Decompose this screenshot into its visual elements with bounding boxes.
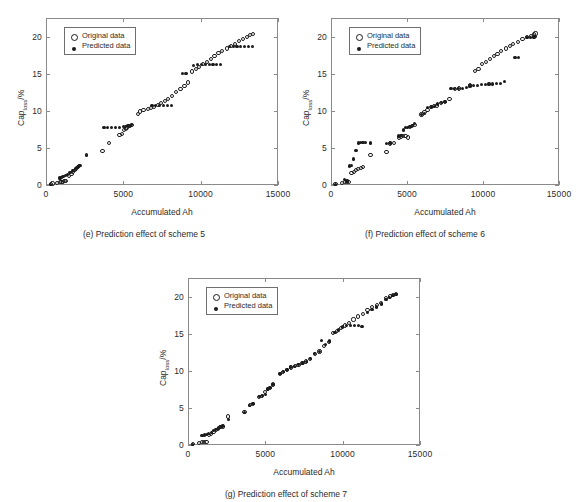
x-tick (559, 181, 560, 185)
filled-circle-icon (69, 37, 79, 55)
data-point-predicted (385, 142, 388, 145)
y-tick (331, 111, 335, 112)
data-point-predicted (334, 183, 337, 186)
panel-caption: (e) Prediction effect of scheme 5 (0, 229, 288, 239)
x-tick-top (331, 18, 332, 22)
legend-label-original: Original data (82, 31, 125, 41)
data-point-predicted (305, 360, 308, 363)
data-point-predicted (235, 45, 238, 48)
x-tick-top (201, 18, 202, 22)
y-tick-right (416, 371, 420, 372)
data-point-predicted (487, 82, 490, 85)
legend-item-predicted: Predicted data (354, 41, 415, 51)
data-point-predicted (337, 328, 340, 331)
data-point-original (516, 40, 520, 44)
x-tick-label: 15000 (539, 189, 576, 199)
y-tick (46, 74, 50, 75)
data-point-predicted (114, 126, 117, 129)
data-point-original (484, 60, 488, 64)
y-tick-right (274, 111, 278, 112)
data-point-predicted (232, 45, 235, 48)
data-point-predicted (192, 64, 195, 67)
data-point-predicted (513, 56, 516, 59)
data-point-predicted (333, 331, 336, 334)
y-tick-label: 20 (20, 32, 42, 42)
data-point-predicted (268, 386, 271, 389)
data-point-predicted (394, 293, 397, 296)
y-tick-label: 0 (20, 180, 42, 190)
y-tick-right (416, 334, 420, 335)
x-tick-top (420, 278, 421, 282)
legend-item-predicted: Predicted data (211, 301, 272, 311)
x-tick-label: 10000 (463, 189, 503, 199)
data-point-predicted (525, 36, 528, 39)
data-point-original (204, 440, 208, 444)
data-point-original (488, 57, 492, 61)
x-tick-top (46, 18, 47, 22)
x-tick-label: 15000 (400, 449, 440, 459)
data-point-predicted (380, 302, 383, 305)
legend: Original dataPredicted data (349, 27, 421, 55)
data-point-predicted (150, 104, 153, 107)
data-point-original (392, 141, 396, 145)
x-tick (407, 181, 408, 185)
y-axis-title: Caploss/% (158, 349, 170, 385)
x-tick-top (188, 278, 189, 282)
data-point-predicted (85, 153, 88, 156)
filled-circle-icon (211, 297, 221, 315)
legend: Original dataPredicted data (64, 27, 136, 55)
data-point-original (174, 90, 178, 94)
y-tick-label: 5 (162, 403, 184, 413)
y-tick-label: 20 (305, 32, 327, 42)
x-tick-top (407, 18, 408, 22)
y-tick-label: 15 (20, 69, 42, 79)
x-tick-top (278, 18, 279, 22)
data-point-original (447, 97, 451, 101)
data-point-predicted (461, 87, 464, 90)
y-tick-label: 15 (305, 69, 327, 79)
x-tick-label: 10000 (181, 189, 221, 199)
data-point-original (384, 150, 388, 154)
data-point-predicted (102, 126, 105, 129)
data-point-original (107, 141, 111, 145)
x-tick (265, 441, 266, 445)
data-point-predicted (375, 305, 378, 308)
data-point-predicted (353, 324, 356, 327)
data-point-predicted (251, 45, 254, 48)
x-tick-label: 0 (168, 449, 208, 459)
y-tick (331, 148, 335, 149)
y-tick (46, 148, 50, 149)
x-axis-title: Accumulated Ah (46, 207, 278, 217)
x-tick (201, 181, 202, 185)
legend-label-original: Original data (367, 31, 410, 41)
y-tick-label: 20 (162, 292, 184, 302)
data-point-predicted (345, 179, 348, 182)
y-tick-right (274, 37, 278, 38)
data-point-predicted (366, 311, 369, 314)
legend-label-predicted: Predicted data (224, 301, 272, 311)
data-point-predicted (476, 84, 479, 87)
x-tick-top (483, 18, 484, 22)
y-tick (331, 37, 335, 38)
y-tick-label: 5 (20, 143, 42, 153)
data-point-predicted (484, 83, 487, 86)
y-tick-right (274, 185, 278, 186)
x-tick-label: 5000 (387, 189, 427, 199)
data-point-predicted (389, 141, 392, 144)
x-tick-label: 0 (311, 189, 351, 199)
x-axis-title: Accumulated Ah (188, 467, 420, 477)
data-point-predicted (328, 339, 331, 342)
legend-item-predicted: Predicted data (69, 41, 130, 51)
x-tick-top (123, 18, 124, 22)
data-point-predicted (271, 383, 274, 386)
data-point-predicted (78, 164, 81, 167)
y-tick-right (416, 408, 420, 409)
data-point-predicted (370, 308, 373, 311)
panel-f: 05000100001500005101520Caploss/%Accumula… (285, 4, 565, 240)
legend-label-predicted: Predicted data (82, 41, 130, 51)
y-tick-right (555, 74, 559, 75)
y-tick (188, 371, 192, 372)
legend-label-original: Original data (224, 291, 267, 301)
data-point-original (368, 153, 372, 157)
data-point-predicted (243, 411, 246, 414)
